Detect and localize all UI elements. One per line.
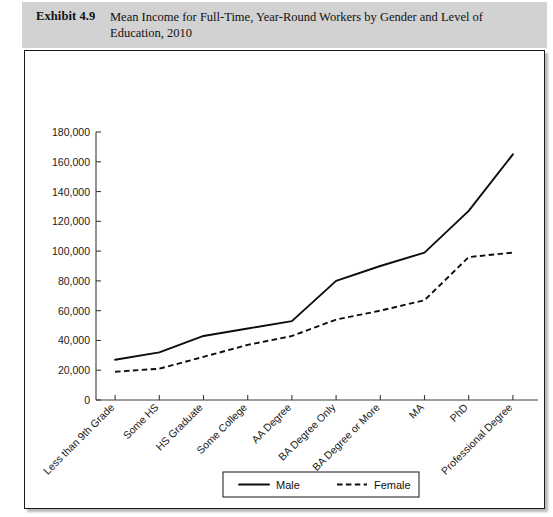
x-axis: Less than 9th GradeSome HSHS GraduateSom… bbox=[41, 395, 538, 477]
exhibit-figure: Exhibit 4.9Mean Income for Full-Time, Ye… bbox=[0, 0, 553, 517]
chart-legend: MaleFemale bbox=[223, 472, 419, 497]
y-tick-label: 60,000 bbox=[58, 305, 90, 317]
x-tick-label: Some HS bbox=[120, 401, 160, 441]
series-line-female bbox=[115, 253, 513, 372]
exhibit-header-bar: Exhibit 4.9Mean Income for Full-Time, Ye… bbox=[22, 2, 547, 48]
line-chart-svg: 180,000160,000140,000120,000100,00080,00… bbox=[25, 51, 544, 508]
y-tick-label: 180,000 bbox=[52, 126, 90, 138]
exhibit-header-inner: Exhibit 4.9Mean Income for Full-Time, Ye… bbox=[22, 2, 547, 48]
x-tick-label: Less than 9th Grade bbox=[41, 401, 117, 477]
y-tick-label: 120,000 bbox=[52, 215, 90, 227]
y-tick-label: 20,000 bbox=[58, 364, 90, 376]
x-tick-label: PhD bbox=[447, 401, 470, 424]
y-tick-group: 180,000160,000140,000120,000100,00080,00… bbox=[52, 126, 101, 406]
y-tick-label: 160,000 bbox=[52, 156, 90, 168]
exhibit-title: Mean Income for Full-Time, Year-Round Wo… bbox=[110, 9, 522, 41]
chart-panel: 180,000160,000140,000120,000100,00080,00… bbox=[24, 50, 545, 509]
x-tick-label: MA bbox=[406, 401, 426, 421]
y-tick-label: 100,000 bbox=[52, 245, 90, 257]
y-tick-label: 80,000 bbox=[58, 275, 90, 287]
y-tick-label: 40,000 bbox=[58, 334, 90, 346]
plot-area: 180,000160,000140,000120,000100,00080,00… bbox=[25, 51, 544, 508]
exhibit-number-label: Exhibit 4.9 bbox=[36, 9, 110, 24]
series-line-male bbox=[115, 154, 513, 359]
legend-label-female: Female bbox=[374, 479, 411, 491]
x-tick-label: AA Degree bbox=[249, 401, 294, 446]
legend-label-male: Male bbox=[276, 479, 300, 491]
y-tick-label: 0 bbox=[84, 394, 90, 406]
data-series-layer bbox=[115, 154, 513, 371]
y-axis: 180,000160,000140,000120,000100,00080,00… bbox=[52, 126, 101, 406]
x-tick-group: Less than 9th GradeSome HSHS GraduateSom… bbox=[41, 395, 515, 477]
y-tick-label: 140,000 bbox=[52, 186, 90, 198]
